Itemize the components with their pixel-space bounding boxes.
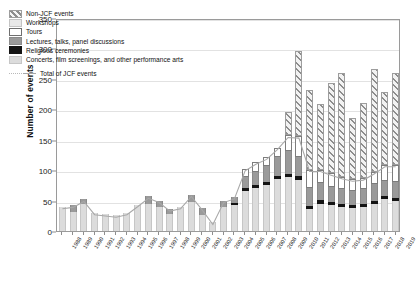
total-jcf-events-line bbox=[62, 138, 395, 225]
x-axis-tick-label: 2014 bbox=[351, 236, 363, 250]
x-axis-tick-label: 2001 bbox=[211, 236, 223, 250]
x-axis-tick-label: 2009 bbox=[297, 236, 309, 250]
x-axis-tick-label: 1997 bbox=[168, 236, 180, 250]
x-axis-tick-mark bbox=[190, 232, 191, 235]
y-axis-tick-mark bbox=[52, 140, 56, 141]
x-axis-tick-mark bbox=[287, 232, 288, 235]
x-axis-tick-mark bbox=[373, 232, 374, 235]
y-axis-tick-label: 350 bbox=[0, 15, 52, 24]
x-axis-tick-mark bbox=[362, 232, 363, 235]
y-axis-tick-label: 250 bbox=[0, 75, 52, 84]
x-axis-tick-label: 2003 bbox=[232, 236, 244, 250]
x-axis-tick-label: 2010 bbox=[308, 236, 320, 250]
x-axis-tick-label: 2017 bbox=[383, 236, 395, 250]
x-axis-tick-mark bbox=[201, 232, 202, 235]
x-axis-tick-mark bbox=[137, 232, 138, 235]
y-axis-tick-mark bbox=[52, 171, 56, 172]
legend-item: Concerts, film screenings, and other per… bbox=[9, 55, 183, 64]
x-axis-tick-label: 2016 bbox=[372, 236, 384, 250]
x-axis-tick-label: 2004 bbox=[243, 236, 255, 250]
x-axis-tick-mark bbox=[180, 232, 181, 235]
y-axis-tick-mark bbox=[52, 232, 56, 233]
y-axis-tick-label: 200 bbox=[0, 106, 52, 115]
legend-solid-line-icon bbox=[23, 73, 36, 74]
x-axis-tick-label: 1995 bbox=[146, 236, 158, 250]
y-axis-tick-mark bbox=[52, 19, 56, 20]
x-axis-tick-label: 1996 bbox=[157, 236, 169, 250]
x-axis-tick-mark bbox=[352, 232, 353, 235]
y-axis-tick-label: 0 bbox=[0, 228, 52, 237]
x-axis-tick-label: 2015 bbox=[361, 236, 373, 250]
x-axis-tick-mark bbox=[244, 232, 245, 235]
x-axis-tick-mark bbox=[83, 232, 84, 235]
x-axis-tick-label: 2002 bbox=[222, 236, 234, 250]
x-axis-tick-mark bbox=[233, 232, 234, 235]
x-axis-tick-label: 1989 bbox=[82, 236, 94, 250]
x-axis-tick-label: 1993 bbox=[125, 236, 137, 250]
x-axis-tick-label: 2011 bbox=[318, 236, 329, 249]
x-axis-tick-mark bbox=[94, 232, 95, 235]
x-axis-tick-label: 1992 bbox=[114, 236, 126, 250]
x-axis-tick-label: 1990 bbox=[93, 236, 105, 250]
x-axis-tick-mark bbox=[319, 232, 320, 235]
x-axis-tick-mark bbox=[341, 232, 342, 235]
x-axis-tick-label: 2019 bbox=[404, 236, 416, 250]
x-axis-tick-mark bbox=[212, 232, 213, 235]
x-axis-tick-mark bbox=[330, 232, 331, 235]
x-axis-tick-mark bbox=[298, 232, 299, 235]
x-axis-tick-label: 2006 bbox=[265, 236, 277, 250]
y-axis-tick-mark bbox=[52, 49, 56, 50]
x-axis-tick-label: 1998 bbox=[179, 236, 191, 250]
x-axis-tick-label: 2008 bbox=[286, 236, 298, 250]
x-axis-tick-label: 2007 bbox=[275, 236, 287, 250]
legend-label: Concerts, film screenings, and other per… bbox=[26, 56, 183, 63]
x-axis-tick-mark bbox=[384, 232, 385, 235]
x-axis-tick-mark bbox=[158, 232, 159, 235]
x-axis-tick-label: 2005 bbox=[254, 236, 266, 250]
x-axis-tick-mark bbox=[309, 232, 310, 235]
x-axis-tick-mark bbox=[72, 232, 73, 235]
y-axis-tick-mark bbox=[52, 79, 56, 80]
x-axis-tick-mark bbox=[395, 232, 396, 235]
x-axis-tick-mark bbox=[115, 232, 116, 235]
y-axis-tick-mark bbox=[52, 110, 56, 111]
y-axis-tick-label: 100 bbox=[0, 167, 52, 176]
legend-swatch-tours-icon bbox=[9, 28, 22, 36]
x-axis-tick-label: 2012 bbox=[329, 236, 341, 250]
y-axis-tick-label: 150 bbox=[0, 136, 52, 145]
x-axis-tick-label: 1991 bbox=[103, 236, 115, 250]
y-axis-tick-mark bbox=[52, 201, 56, 202]
x-axis-tick-mark bbox=[276, 232, 277, 235]
legend-label: Lectures, talks, panel discussions bbox=[26, 38, 124, 45]
x-axis-tick-label: 1999 bbox=[189, 236, 201, 250]
x-axis-tick-label: 1994 bbox=[136, 236, 148, 250]
legend-label: Tours bbox=[26, 28, 42, 35]
x-axis-tick-mark bbox=[147, 232, 148, 235]
y-axis-tick-label: 300 bbox=[0, 45, 52, 54]
x-axis-tick-mark bbox=[169, 232, 170, 235]
x-axis-tick-mark bbox=[223, 232, 224, 235]
x-axis-tick-mark bbox=[61, 232, 62, 235]
legend-swatch-concerts-icon bbox=[9, 56, 22, 64]
x-axis-tick-label: 2013 bbox=[340, 236, 352, 250]
legend-item: Tours bbox=[9, 27, 183, 36]
x-axis-tick-mark bbox=[255, 232, 256, 235]
x-axis-tick-label: 1988 bbox=[71, 236, 83, 250]
x-axis-tick-mark bbox=[104, 232, 105, 235]
y-axis-tick-label: 50 bbox=[0, 197, 52, 206]
legend-dotted-line-icon bbox=[9, 73, 22, 74]
x-axis-tick-mark bbox=[126, 232, 127, 235]
x-axis-tick-label: 2000 bbox=[200, 236, 212, 250]
x-axis-tick-label: 2018 bbox=[394, 236, 406, 250]
x-axis-tick-mark bbox=[266, 232, 267, 235]
